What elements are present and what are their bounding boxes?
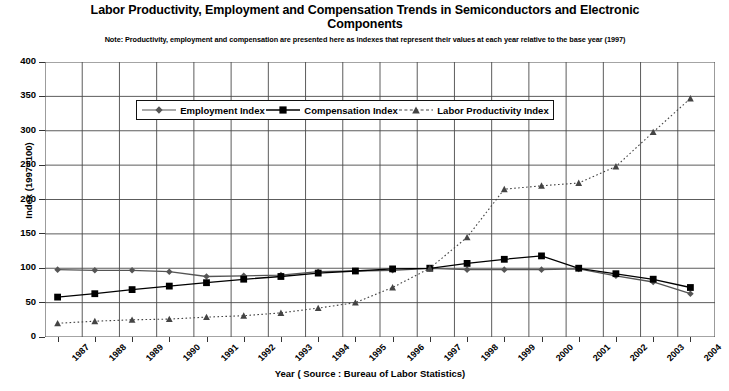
legend-item-compensation: Compensation Index [265,104,397,116]
x-axis-title: Year ( Source : Bureau of Labor Statisti… [180,368,560,379]
x-axis-tick-label: 2000 [553,342,574,363]
x-axis-tick-label: 2003 [665,342,686,363]
productivity-series-icon [398,104,434,116]
x-axis-tick-mark [244,337,245,342]
data-point-marker [501,256,508,263]
data-point-marker [203,279,210,286]
x-axis-tick-label: 2002 [628,342,649,363]
employment-series-icon [141,104,177,116]
x-axis-tick-label: 1989 [144,342,165,363]
x-axis-tick-label: 1994 [330,342,351,363]
y-axis-tick-label: 200 [0,193,36,204]
legend-item-employment: Employment Index [141,104,264,116]
legend-label-compensation: Compensation Index [304,105,397,116]
x-axis-tick-label: 1992 [256,342,277,363]
x-axis-tick-mark [169,337,170,342]
x-axis-tick-label: 1991 [218,342,239,363]
data-point-marker [129,286,136,293]
data-point-marker [166,268,173,275]
data-point-marker [278,273,285,280]
y-axis-tick-label: 300 [0,124,36,135]
data-point-marker [464,260,471,267]
y-axis-tick-label: 50 [0,296,36,307]
x-axis-tick-mark [690,337,691,342]
x-axis-tick-mark [281,337,282,342]
data-point-marker [575,265,582,272]
x-axis-tick-mark [393,337,394,342]
y-axis-tick-label: 100 [0,261,36,272]
legend-label-productivity: Labor Productivity Index [437,105,548,116]
y-axis-tick-label: 250 [0,158,36,169]
x-axis-tick-label: 1987 [69,342,90,363]
x-axis-tick-mark [95,337,96,342]
x-axis-tick-mark [355,337,356,342]
data-point-marker [54,320,61,326]
x-axis-tick-label: 1996 [404,342,425,363]
x-axis-tick-mark [430,337,431,342]
legend-item-productivity: Labor Productivity Index [398,104,548,116]
y-axis-tick-label: 0 [0,330,36,341]
data-point-marker [315,270,322,277]
x-axis-tick-mark [467,337,468,342]
x-axis-tick-mark [653,337,654,342]
data-point-marker [501,266,508,273]
data-point-marker [203,273,210,280]
y-axis-tick-label: 350 [0,89,36,100]
data-point-marker [613,270,620,277]
x-axis-tick-label: 1997 [442,342,463,363]
data-point-marker [650,276,657,283]
data-point-marker [538,266,545,273]
x-axis-tick-mark [207,337,208,342]
data-point-marker [91,318,98,324]
x-axis-tick-label: 1990 [181,342,202,363]
y-axis-tick-label: 150 [0,227,36,238]
chart-figure: Labor Productivity, Employment and Compe… [0,0,729,391]
data-point-marker [54,294,61,301]
series-line [58,268,691,293]
data-point-marker [203,314,210,320]
data-point-marker [166,283,173,290]
data-point-marker [389,284,396,290]
chart-note: Note: Productivity, employment and compe… [75,35,655,44]
x-axis-tick-label: 1988 [107,342,128,363]
data-point-marker [687,284,694,291]
chart-title: Labor Productivity, Employment and Compe… [60,3,670,31]
data-point-marker [575,180,582,186]
x-axis-tick-mark [579,337,580,342]
compensation-series-icon [265,104,301,116]
x-axis-tick-label: 1993 [293,342,314,363]
x-axis-tick-label: 1999 [516,342,537,363]
data-point-marker [91,290,98,297]
x-axis-tick-mark [318,337,319,342]
data-point-marker [538,253,545,260]
y-axis-tick-label: 400 [0,55,36,66]
x-axis-tick-mark [58,337,59,342]
data-point-marker [650,129,657,135]
x-axis-tick-mark [504,337,505,342]
series-line [58,98,691,323]
x-axis-tick-mark [616,337,617,342]
x-axis-tick-label: 2004 [702,342,723,363]
data-point-marker [315,305,322,311]
legend-label-employment: Employment Index [180,105,264,116]
x-axis-tick-mark [132,337,133,342]
series-line [58,256,691,297]
x-axis-tick-label: 2001 [591,342,612,363]
data-point-marker [240,276,247,283]
data-point-marker [687,290,694,297]
chart-legend: Employment Index Compensation Index Labo… [136,100,554,120]
data-point-marker [54,266,61,273]
data-point-marker [389,266,396,273]
x-axis-tick-label: 1995 [367,342,388,363]
x-axis-tick-mark [542,337,543,342]
data-point-marker [464,266,471,273]
data-point-marker [352,268,359,275]
x-axis-tick-label: 1998 [479,342,500,363]
